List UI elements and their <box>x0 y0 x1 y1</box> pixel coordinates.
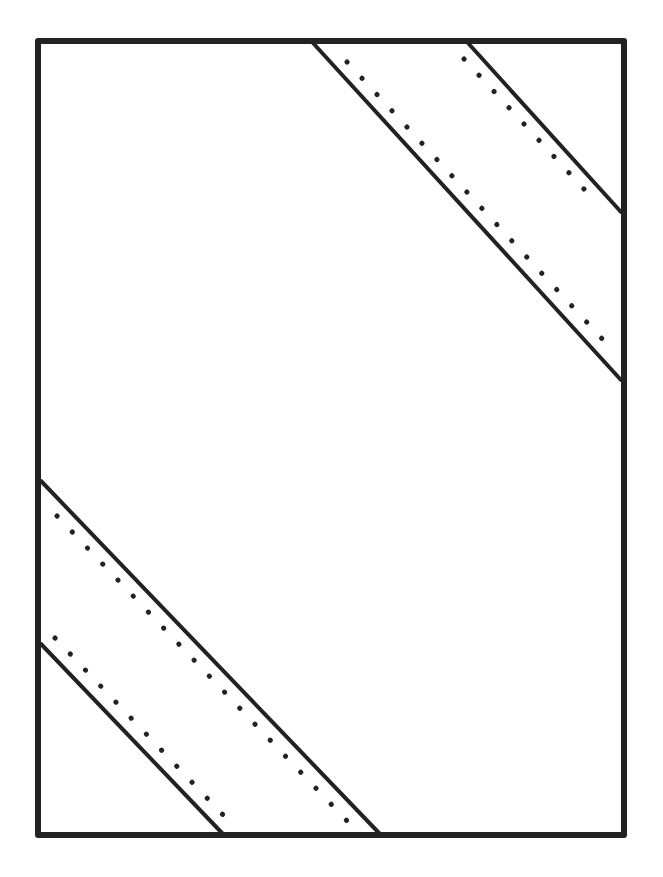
background <box>0 0 663 877</box>
diagram-canvas <box>0 0 663 877</box>
